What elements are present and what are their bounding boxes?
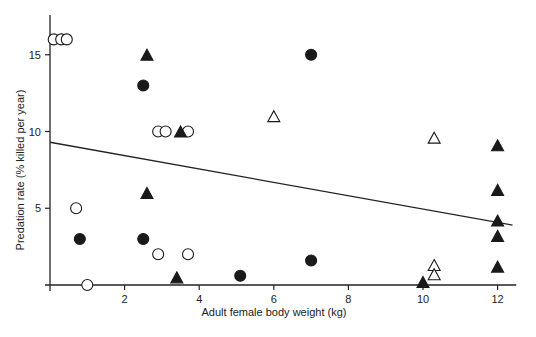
x-tick-label: 12 bbox=[491, 293, 503, 305]
filled-triangle-marker bbox=[492, 140, 504, 151]
x-axis-label: Adult female body weight (kg) bbox=[202, 306, 347, 318]
x-tick-label: 2 bbox=[122, 293, 128, 305]
filled-circle-marker bbox=[306, 255, 317, 266]
open-circle-marker bbox=[183, 249, 194, 260]
filled-circle-marker bbox=[74, 233, 85, 244]
x-tick-label: 6 bbox=[271, 293, 277, 305]
data-points bbox=[48, 34, 503, 291]
open-circle-marker bbox=[160, 126, 171, 137]
filled-circle-marker bbox=[138, 80, 149, 91]
filled-circle-marker bbox=[306, 49, 317, 60]
open-triangle-marker bbox=[428, 132, 440, 143]
filled-triangle-marker bbox=[141, 49, 153, 60]
open-circle-marker bbox=[82, 280, 93, 291]
filled-triangle-marker bbox=[492, 184, 504, 195]
open-triangle-marker bbox=[268, 111, 280, 122]
filled-triangle-marker bbox=[417, 276, 429, 287]
filled-circle-marker bbox=[138, 233, 149, 244]
scatter-chart: 2468101251015 Adult female body weight (… bbox=[0, 0, 536, 337]
filled-circle-marker bbox=[235, 270, 246, 281]
filled-triangle-marker bbox=[141, 187, 153, 198]
x-tick-label: 8 bbox=[345, 293, 351, 305]
filled-triangle-marker bbox=[171, 272, 183, 283]
y-tick-label: 15 bbox=[29, 49, 41, 61]
filled-triangle-marker bbox=[492, 261, 504, 272]
x-tick-label: 10 bbox=[417, 293, 429, 305]
open-circle-marker bbox=[71, 203, 82, 214]
filled-triangle-marker bbox=[492, 215, 504, 226]
y-tick-label: 5 bbox=[35, 202, 41, 214]
open-circle-marker bbox=[153, 249, 164, 260]
x-tick-label: 4 bbox=[196, 293, 202, 305]
filled-triangle-marker bbox=[492, 230, 504, 241]
axes: 2468101251015 bbox=[29, 15, 517, 305]
regression-line bbox=[50, 142, 513, 225]
y-axis-label: Predation rate (% killed per year) bbox=[14, 90, 26, 251]
y-tick-label: 10 bbox=[29, 126, 41, 138]
open-circle-marker bbox=[61, 34, 72, 45]
